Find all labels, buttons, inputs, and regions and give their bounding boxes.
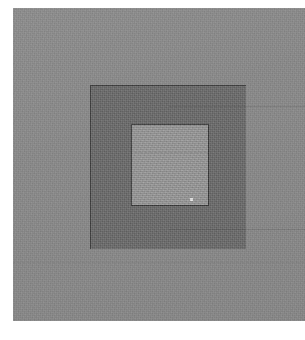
inner-light-square <box>131 124 209 206</box>
outer-dark-square <box>90 85 246 249</box>
image-canvas <box>0 0 305 340</box>
inner-seam-line <box>133 152 208 153</box>
gray-field-region <box>13 8 305 321</box>
field-seam-line <box>13 262 305 263</box>
upper-seam-line <box>169 106 305 107</box>
white-speck <box>190 198 193 201</box>
inner-square-grain <box>132 125 208 205</box>
lower-seam-line <box>169 229 305 230</box>
